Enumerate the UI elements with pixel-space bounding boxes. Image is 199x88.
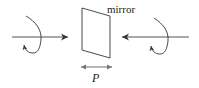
- mirror-plane: [82, 8, 110, 58]
- mirror-label: mirror: [107, 3, 135, 15]
- mirror-parity-diagram: mirror P: [0, 0, 199, 88]
- parity-label: P: [91, 71, 100, 85]
- left-rotation-curl-icon: [24, 16, 41, 53]
- right-rotation-curl-icon: [151, 18, 168, 54]
